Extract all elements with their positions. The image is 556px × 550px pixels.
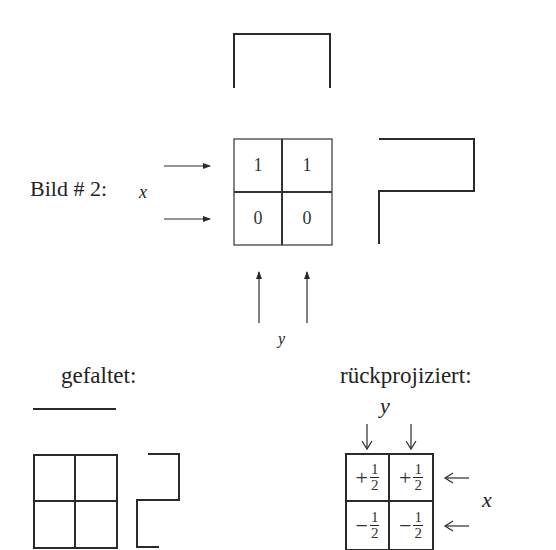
backprojected-cell: − 12 bbox=[346, 501, 389, 550]
y-projection-arrows bbox=[259, 272, 307, 323]
folded-right-profile bbox=[137, 454, 179, 547]
backprojected-x-label: x bbox=[482, 487, 492, 513]
grid-cell: 1 bbox=[234, 139, 282, 192]
arrow-left-icon bbox=[445, 473, 469, 483]
backprojected-cell: − 12 bbox=[389, 501, 433, 550]
backprojected-cell: + 12 bbox=[346, 454, 389, 501]
folded-label: gefaltet: bbox=[61, 363, 136, 389]
folded-grid bbox=[34, 455, 117, 548]
x-projection-arrows bbox=[164, 166, 210, 219]
backprojected-y-arrows bbox=[362, 424, 416, 449]
grid-cell: 0 bbox=[234, 192, 282, 245]
x-axis-label: x bbox=[139, 182, 147, 203]
arrow-left-icon bbox=[445, 521, 469, 531]
diagram-canvas bbox=[0, 0, 556, 550]
arrow-down-icon bbox=[406, 424, 416, 449]
y-axis-label: y bbox=[278, 330, 285, 348]
backprojected-y-label: y bbox=[380, 393, 390, 419]
figure-title: Bild # 2: bbox=[30, 176, 107, 202]
right-projection-profile bbox=[379, 139, 474, 244]
backprojected-x-arrows bbox=[445, 473, 469, 531]
grid-cell: 0 bbox=[282, 192, 332, 245]
arrow-down-icon bbox=[362, 424, 372, 449]
backprojected-cell: + 12 bbox=[389, 454, 433, 501]
top-projection-profile bbox=[234, 34, 330, 88]
backprojected-label: rückprojiziert: bbox=[340, 363, 472, 389]
grid-cell: 1 bbox=[282, 139, 332, 192]
